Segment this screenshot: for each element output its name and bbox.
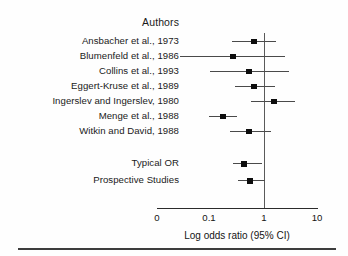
plot-area: [0, 0, 348, 256]
point-estimate-marker: [251, 84, 257, 90]
point-estimate-marker: [246, 69, 252, 75]
point-estimate-marker: [271, 99, 277, 105]
point-estimate-marker: [230, 54, 236, 60]
point-estimate-marker: [246, 129, 252, 135]
point-estimate-marker: [241, 161, 247, 167]
x-axis-tick-label: 10: [312, 212, 323, 223]
bottom-divider-rule: [18, 248, 336, 250]
x-axis-title: Log odds ratio (95% CI): [184, 230, 290, 241]
reference-line: [264, 33, 265, 208]
x-axis-line: [157, 208, 318, 209]
forest-plot-figure: Authors Ansbacher et al., 1973Blumenfeld…: [0, 0, 348, 256]
point-estimate-marker: [251, 39, 257, 45]
point-estimate-marker: [247, 178, 253, 184]
confidence-interval-line: [233, 163, 262, 164]
x-axis-tick-label: 1: [261, 212, 266, 223]
point-estimate-marker: [220, 114, 226, 120]
x-axis-tick-label: 0.1: [202, 212, 215, 223]
x-axis-tick-label: 0: [154, 212, 159, 223]
